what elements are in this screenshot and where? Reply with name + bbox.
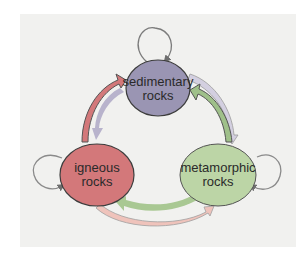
node-igneous-label-line2: rocks: [81, 174, 113, 189]
node-metamorphic-label-line2: rocks: [202, 174, 234, 189]
node-igneous-label-line1: igneous: [74, 160, 120, 175]
arrow-metamorphic-to-igneous: [116, 193, 200, 211]
rock-cycle-diagram: sedimentary rocks igneous rocks metamorp…: [0, 0, 308, 257]
self-loop-igneous: [33, 155, 62, 188]
node-sedimentary-label-line2: rocks: [142, 88, 174, 103]
node-metamorphic-rocks: metamorphic rocks: [180, 144, 256, 206]
node-sedimentary-label-line1: sedimentary: [123, 74, 194, 89]
node-metamorphic-label-line1: metamorphic: [180, 160, 256, 175]
self-loop-sedimentary: [138, 28, 171, 62]
node-sedimentary-rocks: sedimentary rocks: [123, 60, 194, 116]
node-igneous-rocks: igneous rocks: [60, 144, 134, 206]
